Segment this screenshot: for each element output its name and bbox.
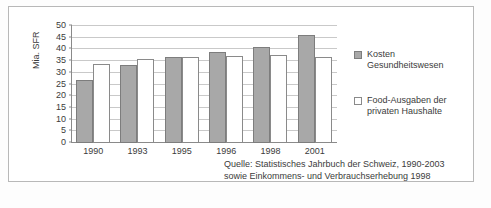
bar-groups: [71, 25, 337, 143]
legend-item-food: Food-Ausgaben der privaten Haushalte: [354, 95, 479, 117]
bar-group: [209, 25, 243, 143]
legend-swatch-food-icon: [354, 97, 362, 105]
y-tick-label: 40: [56, 44, 66, 53]
legend-label-food-line1: Food-Ausgaben der: [367, 95, 447, 105]
legend-label-cost-line2: Gesundheitswesen: [367, 60, 444, 70]
legend-label-food: Food-Ausgaben der privaten Haushalte: [367, 95, 447, 117]
bar-cost-1998: [253, 47, 270, 143]
bar-group: [298, 25, 332, 143]
bar-food-1996: [226, 56, 243, 143]
x-tick-label: 1995: [164, 146, 200, 156]
y-tick-label: 45: [56, 32, 66, 41]
y-tick-label: 30: [56, 67, 66, 76]
bar-food-1998: [270, 55, 287, 143]
y-axis-title: Mia. SFR: [31, 31, 41, 69]
chart-frame: Mia. SFR 50454035302520151050 1990199319…: [8, 6, 474, 182]
caption-strip: [0, 192, 491, 208]
x-tick-label: 1998: [252, 146, 288, 156]
bar-group: [253, 25, 287, 143]
y-tick-label: 5: [61, 126, 66, 135]
bar-food-1990: [93, 64, 110, 143]
y-tick-label: 15: [56, 102, 66, 111]
y-tick-label: 25: [56, 79, 66, 88]
bar-food-2001: [315, 57, 332, 143]
y-tick-label: 35: [56, 56, 66, 65]
bar-cost-1995: [165, 57, 182, 143]
bar-food-1993: [137, 59, 154, 143]
bar-cost-1990: [76, 80, 93, 143]
source-line-1: Quelle: Statistisches Jahrbuch der Schwe…: [224, 159, 482, 171]
x-tick-label: 1996: [208, 146, 244, 156]
legend-item-kosten: Kosten Gesundheitswesen: [354, 49, 479, 71]
source-note: Quelle: Statistisches Jahrbuch der Schwe…: [224, 159, 482, 182]
x-tick-label: 2001: [297, 146, 333, 156]
legend-swatch-cost-icon: [354, 51, 362, 59]
legend-label-food-line2: privaten Haushalte: [367, 106, 442, 116]
y-tick-label: 10: [56, 114, 66, 123]
y-tick-label: 0: [61, 138, 66, 147]
bar-group: [76, 25, 110, 143]
bar-group: [165, 25, 199, 143]
y-tick-label: 50: [56, 21, 66, 30]
legend-label-cost: Kosten Gesundheitswesen: [367, 49, 444, 71]
bar-food-1995: [182, 57, 199, 143]
bar-cost-2001: [298, 35, 315, 143]
plot-area: 50454035302520151050: [71, 25, 337, 143]
x-tick-label: 1990: [75, 146, 111, 156]
y-tick-label: 20: [56, 91, 66, 100]
chart-figure: Mia. SFR 50454035302520151050 1990199319…: [0, 0, 491, 208]
source-line-2: sowie Einkommens- und Verbrauchserhebung…: [224, 171, 482, 183]
legend-label-cost-line1: Kosten: [367, 49, 395, 59]
chart-legend: Kosten Gesundheitswesen Food-Ausgaben de…: [354, 49, 479, 141]
x-tick-label: 1993: [119, 146, 155, 156]
x-axis-labels: 199019931995199619982001: [71, 146, 337, 156]
bar-cost-1993: [120, 65, 137, 143]
bar-group: [120, 25, 154, 143]
bar-cost-1996: [209, 52, 226, 143]
